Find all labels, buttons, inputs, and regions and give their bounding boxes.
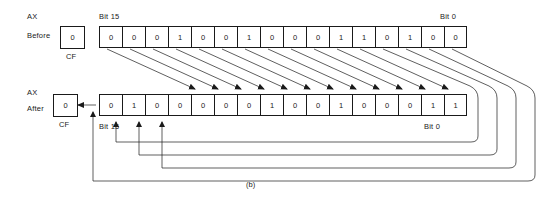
after-bit-2: 0 [398,94,421,116]
before-bit-5: 1 [329,26,352,48]
before-bit-11: 0 [191,26,214,48]
after-bit-9: 0 [237,94,260,116]
bit0-label-top: Bit 0 [440,12,456,21]
before-bit-3: 0 [375,26,398,48]
before-bit-10: 0 [214,26,237,48]
bit15-label-top: Bit 15 [99,12,119,21]
before-bit-12: 1 [168,26,191,48]
after-bit-8: 1 [260,94,283,116]
before-bit-15: 0 [99,26,122,48]
ax-label-bottom: AX [27,88,37,97]
after-label: After [27,104,44,113]
before-bit-14: 0 [122,26,145,48]
bit15-label-bottom: Bit 15 [99,122,119,131]
bit0-label-bottom: Bit 0 [424,122,440,131]
after-bit-10: 0 [214,94,237,116]
cf-box-after: 0 [53,94,78,117]
rotate-left-diagram: AX Before Bit 15 Bit 0 0 CF 000100100011… [0,0,547,200]
before-bit-8: 0 [260,26,283,48]
before-label: Before [27,31,50,40]
after-bit-7: 0 [283,94,306,116]
before-bit-4: 1 [352,26,375,48]
after-bit-12: 0 [168,94,191,116]
after-bit-1: 1 [421,94,444,116]
before-bit-6: 0 [306,26,329,48]
after-bit-14: 1 [122,94,145,116]
register-row-after: 0100000100100011 [99,94,467,116]
before-bit-1: 0 [421,26,444,48]
ax-label-top: AX [27,12,37,21]
after-bit-0: 1 [444,94,467,116]
after-bit-15: 0 [99,94,122,116]
register-row-before: 0001001000110100 [99,26,467,48]
before-bit-7: 0 [283,26,306,48]
after-bit-13: 0 [145,94,168,116]
after-bit-3: 0 [375,94,398,116]
cf-caption-after: CF [59,120,69,129]
before-bit-13: 0 [145,26,168,48]
before-bit-0: 0 [444,26,467,48]
cf-box-before: 0 [60,26,85,49]
after-bit-11: 0 [191,94,214,116]
before-bit-2: 1 [398,26,421,48]
figure-caption: (b) [246,180,255,189]
before-bit-9: 1 [237,26,260,48]
after-bit-5: 1 [329,94,352,116]
cf-caption-before: CF [66,52,76,61]
after-bit-4: 0 [352,94,375,116]
after-bit-6: 0 [306,94,329,116]
